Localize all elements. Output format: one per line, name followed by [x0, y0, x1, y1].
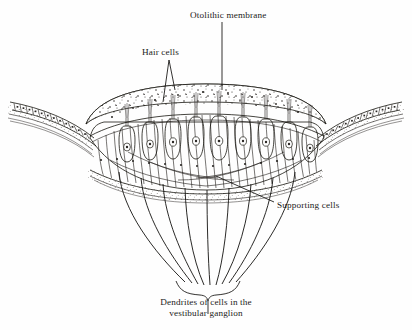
hair-cell [281, 114, 297, 160]
hair-cell [302, 119, 318, 162]
label-dendrites: Dendrites of cells in the vestibular gan… [146, 297, 266, 319]
figure-container: Otolithic membrane Hair cells Supporting… [0, 0, 412, 330]
hair-cell [188, 108, 204, 159]
nerve-fiber-bundle [110, 152, 302, 285]
hair-cell [165, 110, 181, 159]
hair-cell [142, 114, 158, 160]
label-hair-cells: Hair cells [142, 47, 179, 58]
hair-cell-group [119, 107, 318, 162]
otolithic-membrane [80, 80, 336, 130]
right-epithelium [302, 96, 412, 160]
vestibular-macula-illustration [0, 0, 412, 330]
label-otolithic-membrane: Otolithic membrane [190, 10, 266, 21]
label-supporting-cells: Supporting cells [277, 200, 339, 211]
sensory-epithelium [80, 107, 336, 208]
